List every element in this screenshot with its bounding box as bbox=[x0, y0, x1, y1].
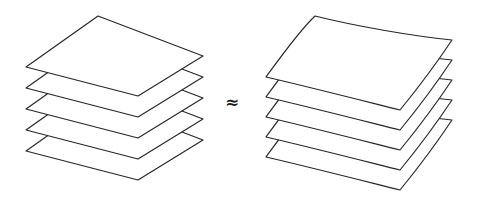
approximately-equal-symbol: ≈ bbox=[221, 89, 243, 115]
figure-canvas: ≈ bbox=[0, 0, 477, 209]
